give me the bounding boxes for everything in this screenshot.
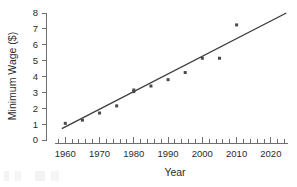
x-tick-label: 1960 (55, 148, 76, 159)
data-point (98, 112, 101, 115)
y-tick-label: 7 (33, 23, 38, 34)
scan-artifact (4, 171, 82, 181)
trend-line (62, 13, 286, 129)
data-point (149, 85, 152, 88)
y-tick-label: 4 (33, 71, 38, 82)
x-axis-minor-ticks (58, 139, 284, 144)
y-tick-label: 8 (33, 7, 38, 18)
y-tick-label: 6 (33, 39, 38, 50)
data-point (81, 119, 84, 122)
x-tick-label: 2020 (260, 148, 281, 159)
x-axis-title: Year (164, 166, 186, 178)
data-point (184, 71, 187, 74)
x-tick-label: 2000 (192, 148, 213, 159)
x-tick-label: 2010 (226, 148, 247, 159)
data-point (132, 88, 135, 91)
y-axis-title: Minimum Wage ($) (6, 32, 18, 120)
x-tick-label: 1970 (89, 148, 110, 159)
data-point-group (64, 23, 238, 124)
data-point (167, 78, 170, 81)
data-point (218, 57, 221, 60)
y-tick-label: 1 (33, 119, 38, 130)
data-point (64, 122, 67, 125)
y-tick-label: 2 (33, 103, 38, 114)
chart-figure: 012345678 1960197019801990200020102020 M… (0, 0, 297, 187)
x-axis-major-ticks (65, 137, 271, 144)
x-tick-label: 1990 (158, 148, 179, 159)
scatter-plot: 012345678 1960197019801990200020102020 M… (0, 0, 297, 187)
x-axis-tick-labels: 1960197019801990200020102020 (55, 148, 282, 159)
data-point (115, 104, 118, 107)
y-tick-label: 0 (33, 134, 38, 145)
y-tick-label: 3 (33, 87, 38, 98)
x-tick-label: 1980 (123, 148, 144, 159)
y-axis-ticks (42, 13, 47, 140)
data-point (235, 23, 238, 26)
data-point (201, 57, 204, 60)
y-tick-label: 5 (33, 55, 38, 66)
y-axis-tick-labels: 012345678 (33, 7, 38, 145)
